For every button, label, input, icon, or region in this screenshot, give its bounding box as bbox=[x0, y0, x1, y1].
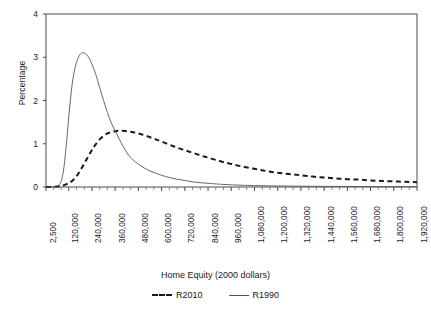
plot-frame bbox=[46, 14, 417, 187]
chart-figure: Percentage 01234 2,500120,000240,000360,… bbox=[0, 0, 431, 312]
legend-key-dashed bbox=[152, 294, 172, 296]
legend-key-solid bbox=[229, 295, 249, 296]
legend-item: R1990 bbox=[229, 290, 280, 300]
x-axis-title: Home Equity (2000 dollars) bbox=[0, 270, 431, 280]
series-line-r1990 bbox=[46, 53, 417, 187]
legend-label: R1990 bbox=[253, 290, 280, 300]
chart-legend: R2010R1990 bbox=[0, 290, 431, 300]
legend-item: R2010 bbox=[152, 290, 203, 300]
legend-label: R2010 bbox=[176, 290, 203, 300]
series-line-r2010 bbox=[46, 131, 417, 187]
plot-area bbox=[0, 0, 431, 312]
